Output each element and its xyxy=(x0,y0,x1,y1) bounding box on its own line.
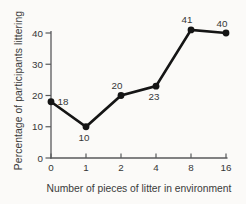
y-axis-title: Percentage of participants littering xyxy=(13,11,26,171)
chart-canvas: 0102030400124816181020234140 xyxy=(0,0,246,204)
data-point xyxy=(153,83,160,90)
data-point-label: 23 xyxy=(149,91,160,102)
x-axis-title: Number of pieces of litter in environmen… xyxy=(32,183,246,194)
data-line xyxy=(51,30,226,127)
data-point xyxy=(188,26,195,33)
data-point-label: 10 xyxy=(79,132,90,143)
x-tick-label: 8 xyxy=(188,162,194,173)
x-tick-label: 16 xyxy=(221,162,232,173)
y-tick-label: 0 xyxy=(38,153,44,164)
y-tick-label: 20 xyxy=(32,90,43,101)
data-point xyxy=(48,98,55,105)
x-tick-label: 1 xyxy=(83,162,88,173)
y-tick-label: 10 xyxy=(32,121,43,132)
littering-line-chart: 0102030400124816181020234140 Percentage … xyxy=(0,0,246,204)
data-point xyxy=(118,92,125,99)
data-point-label: 41 xyxy=(182,14,193,25)
y-tick-label: 40 xyxy=(32,28,43,39)
data-point-label: 40 xyxy=(217,18,228,29)
x-tick-label: 0 xyxy=(48,162,54,173)
data-point xyxy=(83,123,90,130)
x-tick-label: 2 xyxy=(118,162,123,173)
data-point xyxy=(223,30,230,37)
y-tick-label: 30 xyxy=(32,59,43,70)
data-point-label: 18 xyxy=(58,96,69,107)
data-point-label: 20 xyxy=(112,80,123,91)
x-tick-label: 4 xyxy=(153,162,159,173)
